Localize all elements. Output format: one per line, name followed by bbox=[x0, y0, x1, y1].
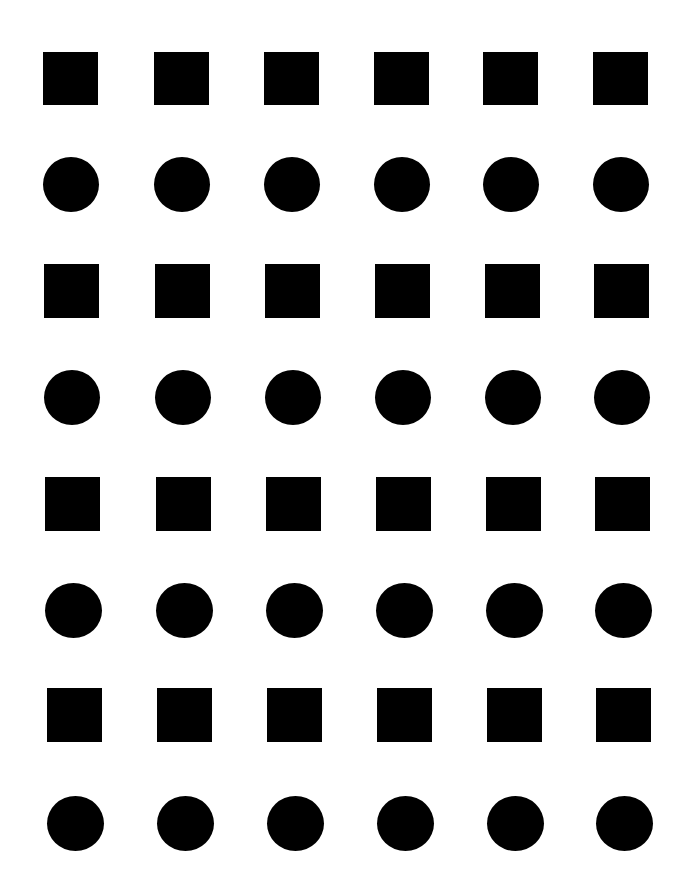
square-shape bbox=[44, 264, 99, 318]
circle-shape bbox=[264, 157, 320, 212]
circle-shape bbox=[374, 157, 430, 212]
circle-shape bbox=[485, 370, 541, 425]
square-shape bbox=[595, 477, 650, 531]
square-shape bbox=[43, 52, 98, 105]
shape-grid bbox=[0, 0, 683, 881]
square-shape bbox=[157, 688, 212, 742]
circle-shape bbox=[377, 796, 434, 851]
circle-shape bbox=[154, 157, 210, 212]
circle-shape bbox=[47, 796, 104, 851]
circle-shape bbox=[593, 157, 649, 212]
circle-shape bbox=[265, 370, 321, 425]
square-shape bbox=[47, 688, 102, 742]
square-shape bbox=[483, 52, 538, 105]
circle-shape bbox=[486, 583, 543, 638]
circle-shape bbox=[266, 583, 323, 638]
square-shape bbox=[485, 264, 540, 318]
circle-shape bbox=[267, 796, 324, 851]
square-shape bbox=[45, 477, 100, 531]
square-shape bbox=[266, 477, 321, 531]
square-shape bbox=[374, 52, 429, 105]
square-shape bbox=[375, 264, 430, 318]
square-shape bbox=[487, 688, 542, 742]
circle-shape bbox=[595, 583, 652, 638]
circle-shape bbox=[594, 370, 650, 425]
square-shape bbox=[377, 688, 432, 742]
circle-shape bbox=[376, 583, 433, 638]
square-shape bbox=[376, 477, 431, 531]
square-shape bbox=[265, 264, 320, 318]
circle-shape bbox=[487, 796, 544, 851]
square-shape bbox=[594, 264, 649, 318]
square-shape bbox=[156, 477, 211, 531]
square-shape bbox=[154, 52, 209, 105]
circle-shape bbox=[43, 157, 99, 212]
circle-shape bbox=[157, 796, 214, 851]
circle-shape bbox=[596, 796, 653, 851]
circle-shape bbox=[375, 370, 431, 425]
circle-shape bbox=[45, 583, 102, 638]
circle-shape bbox=[483, 157, 539, 212]
circle-shape bbox=[155, 370, 211, 425]
square-shape bbox=[593, 52, 648, 105]
circle-shape bbox=[156, 583, 213, 638]
square-shape bbox=[155, 264, 210, 318]
circle-shape bbox=[44, 370, 100, 425]
square-shape bbox=[264, 52, 319, 105]
square-shape bbox=[596, 688, 651, 742]
square-shape bbox=[267, 688, 322, 742]
square-shape bbox=[486, 477, 541, 531]
